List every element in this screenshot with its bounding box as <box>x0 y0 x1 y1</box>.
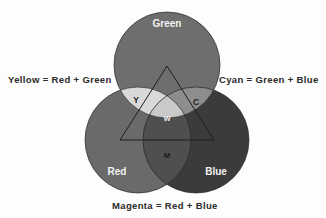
diagram-canvas: Green Red Blue Y C M W Yellow = Red + Gr… <box>0 0 326 218</box>
overlap-label-cyan: C <box>193 97 199 107</box>
circle-label-blue: Blue <box>205 166 227 177</box>
overlap-label-yellow: Y <box>133 95 139 105</box>
equation-label-yellow: Yellow = Red + Green <box>8 74 112 85</box>
venn-diagram-svg: Green Red Blue Y C M W <box>0 0 326 218</box>
overlap-label-magenta: M <box>164 151 171 160</box>
overlap-label-white: W <box>163 114 171 123</box>
circle-label-red: Red <box>108 166 127 177</box>
equation-label-magenta: Magenta = Red + Blue <box>112 200 218 211</box>
equation-label-cyan: Cyan = Green + Blue <box>219 74 319 85</box>
circle-label-green: Green <box>153 18 182 29</box>
